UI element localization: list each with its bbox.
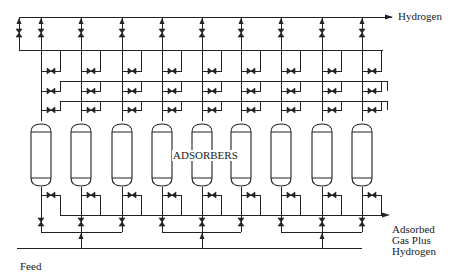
valve-icon [199, 218, 205, 226]
arrow-up-icon [279, 18, 284, 24]
valve-icon [87, 192, 95, 198]
valve-icon [247, 192, 255, 198]
valve-icon [359, 29, 365, 37]
purge-branch [41, 195, 60, 215]
equalization-branch [362, 50, 381, 71]
equalization-branch [162, 101, 181, 110]
equalization-branch [41, 101, 60, 110]
valve-icon [47, 192, 55, 198]
purge-branch [241, 195, 260, 215]
equalization-branch [362, 81, 381, 91]
arrow-up-icon [160, 18, 165, 24]
equalization-branch [202, 50, 221, 71]
equalization-branch [202, 101, 221, 110]
equalization-branch [41, 50, 60, 71]
valve-icon [128, 88, 136, 94]
valve-icon [159, 29, 165, 37]
adsorber-vessel [271, 124, 291, 186]
valve-icon [87, 88, 95, 94]
valve-icon [38, 218, 44, 226]
valve-icon [278, 218, 284, 226]
valve-icon [287, 88, 295, 94]
adsorber-vessel [31, 124, 51, 186]
valve-icon [238, 29, 244, 37]
equalization-branch [281, 81, 300, 91]
valve-icon [278, 29, 284, 37]
valve-icon [128, 68, 136, 74]
psa-process-diagram [0, 0, 453, 272]
equalization-branch [162, 81, 181, 91]
valve-icon [208, 88, 216, 94]
valve-icon [47, 68, 55, 74]
arrow-up-icon [320, 18, 325, 24]
valve-icon [287, 68, 295, 74]
valve-icon [128, 192, 136, 198]
valve-icon [168, 68, 176, 74]
purge-branch [362, 195, 381, 215]
equalization-branch [322, 101, 341, 110]
valve-icon [168, 192, 176, 198]
tail-gas-label-line-3: Hydrogen [392, 246, 436, 257]
equalization-branch [241, 101, 260, 110]
valve-icon [319, 218, 325, 226]
valve-icon [287, 107, 295, 113]
equalization-branch [241, 50, 260, 71]
purge-branch [281, 195, 300, 215]
valve-icon [199, 29, 205, 37]
valve-icon [78, 29, 84, 37]
feed-label: Feed [20, 261, 41, 272]
hydrogen-product-label: Hydrogen [398, 11, 442, 22]
purge-branch [81, 195, 100, 215]
valve-icon [159, 218, 165, 226]
tail-gas-label: Adsorbed Gas Plus Hydrogen [392, 224, 436, 257]
equalization-branch [322, 81, 341, 91]
equalization-branch [281, 101, 300, 110]
valve-icon [328, 107, 336, 113]
valve-icon [119, 29, 125, 37]
valve-icon [368, 192, 376, 198]
valve-icon [16, 29, 22, 37]
equalization-branch [81, 81, 100, 91]
arrow-up-icon [79, 18, 84, 24]
valve-icon [208, 192, 216, 198]
equalization-branch [122, 81, 141, 91]
equalization-branch [122, 50, 141, 71]
arrow-right-icon [385, 15, 393, 20]
equalization-branch [162, 50, 181, 71]
adsorber-vessel [312, 124, 332, 186]
valve-icon [87, 107, 95, 113]
valve-icon [47, 88, 55, 94]
purge-branch [162, 195, 181, 215]
valve-icon [208, 68, 216, 74]
valve-icon [47, 107, 55, 113]
adsorber-vessel [152, 124, 172, 186]
purge-branch [322, 195, 341, 215]
valve-icon [128, 107, 136, 113]
valve-icon [328, 192, 336, 198]
valve-icon [328, 88, 336, 94]
valve-icon [238, 218, 244, 226]
equalization-branch [41, 81, 60, 91]
valve-icon [208, 107, 216, 113]
adsorber-vessel [71, 124, 91, 186]
valve-icon [287, 192, 295, 198]
valve-icon [368, 107, 376, 113]
arrow-up-icon [39, 18, 44, 24]
valve-icon [368, 68, 376, 74]
equalization-branch [281, 50, 300, 71]
equalization-branch [81, 101, 100, 110]
arrow-up-icon [17, 18, 22, 24]
valve-icon [247, 88, 255, 94]
arrow-up-icon [79, 233, 84, 239]
adsorber-vessel [112, 124, 132, 186]
arrow-up-icon [320, 233, 325, 239]
valve-icon [368, 88, 376, 94]
purge-branch [122, 195, 141, 215]
purge-branch [202, 195, 221, 215]
valve-icon [78, 218, 84, 226]
arrow-up-icon [239, 18, 244, 24]
valve-icon [168, 88, 176, 94]
equalization-branch [362, 101, 381, 110]
equalization-branch [241, 81, 260, 91]
equalization-branch [122, 101, 141, 110]
